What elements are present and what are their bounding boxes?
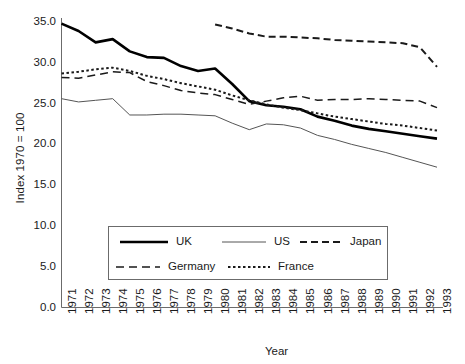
x-axis-title: Year (0, 345, 465, 357)
x-tick-label: 1986 (323, 288, 335, 314)
x-tick-label: 1971 (67, 288, 79, 314)
x-tick-label: 1992 (425, 288, 437, 314)
x-tick-label: 1982 (254, 288, 266, 314)
x-tick-label: 1979 (203, 288, 215, 314)
x-tick-label: 1978 (186, 288, 198, 314)
x-tick-label: 1981 (237, 288, 249, 314)
x-tick-label: 1974 (118, 288, 130, 314)
x-tick-label: 1972 (84, 288, 96, 314)
legend-label-japan: Japan (350, 236, 381, 248)
series-line-japan (215, 24, 437, 66)
legend-label-us: US (274, 236, 290, 248)
x-tick-label: 1973 (101, 288, 113, 314)
x-tick-label: 1993 (442, 288, 454, 314)
x-tick-label: 1976 (152, 288, 164, 314)
x-tick-label: 1987 (340, 288, 352, 314)
x-tick-label: 1983 (271, 288, 283, 314)
legend-label-germany: Germany (168, 261, 215, 273)
chart-legend (108, 226, 388, 280)
x-tick-label: 1975 (135, 288, 147, 314)
legend-label-france: France (278, 261, 314, 273)
chart-figure: Index 1970 = 100 35.030.025.020.015.010.… (0, 0, 465, 364)
x-tick-label: 1984 (288, 288, 300, 314)
x-tick-label: 1985 (305, 288, 317, 314)
legend-label-uk: UK (176, 236, 192, 248)
series-line-uk (62, 24, 438, 139)
series-line-us (62, 99, 438, 168)
x-tick-label: 1980 (220, 288, 232, 314)
x-tick-label: 1990 (391, 288, 403, 314)
x-tick-label: 1991 (408, 288, 420, 314)
x-tick-label: 1988 (357, 288, 369, 314)
x-tick-label: 1989 (374, 288, 386, 314)
x-tick-label: 1977 (169, 288, 181, 314)
